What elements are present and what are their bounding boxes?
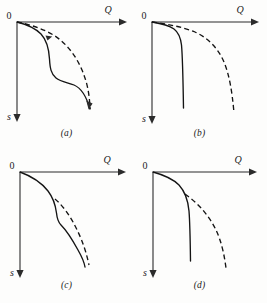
panel-a-caption: (a) [0,129,133,139]
measured-q-s-curve [20,172,85,267]
curve-branch-arrow [46,36,53,41]
x-axis-label: Q [103,154,111,165]
figure-container: 0 Q s (a) 0 Q s (b) 0 [0,0,267,303]
measured-q-s-curve [17,22,90,109]
x-axis-label: Q [104,4,112,15]
x-axis-arrowhead [118,168,126,175]
x-axis-label: Q [236,4,244,15]
origin-label: 0 [10,160,15,171]
theoretical-q-s-curve [152,22,234,113]
theoretical-q-s-curve [185,194,226,268]
y-axis-arrowhead [16,270,23,278]
y-axis-arrowhead [148,116,155,124]
y-axis-label: s [10,267,14,278]
origin-label: 0 [143,160,148,171]
origin-label: 0 [142,10,147,21]
y-axis-label: s [143,267,147,278]
panel-c-caption: (c) [0,281,133,291]
y-axis-label: s [142,113,146,124]
origin-label: 0 [7,10,12,21]
x-axis-arrowhead [119,18,127,25]
y-axis-arrowhead [13,114,20,122]
y-axis-arrowhead [149,270,156,278]
measured-q-s-curve [152,22,184,108]
y-axis-label: s [7,111,11,122]
measured-q-s-curve [153,172,191,261]
x-axis-label: Q [234,154,242,165]
x-axis-arrowhead [251,18,259,25]
theoretical-q-s-curve [55,199,89,265]
theoretical-q-s-curve [17,22,90,109]
x-axis-arrowhead [249,168,257,175]
panel-b-caption: (b) [133,129,266,139]
panel-d-caption: (d) [133,281,266,291]
